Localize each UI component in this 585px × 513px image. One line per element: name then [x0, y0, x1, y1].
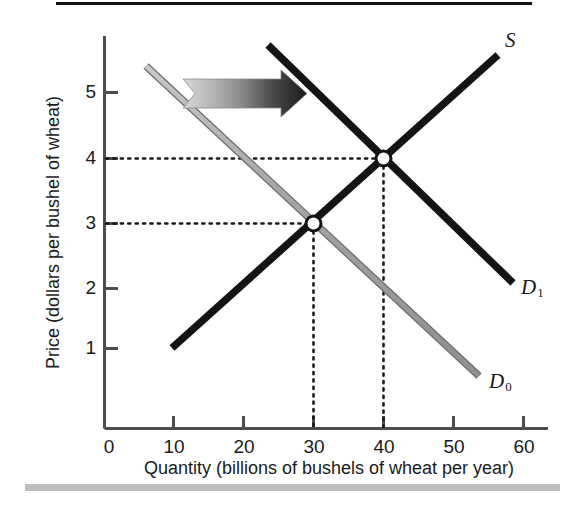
x-tick-label-50: 50: [440, 437, 468, 456]
supply-demand-figure: 5 4 3 2 1 0 10 20 30 40 50 60 Price (dol…: [0, 0, 585, 513]
x-axis-ticks: [174, 416, 524, 429]
y-axis-ticks: [105, 93, 119, 349]
y-tick-label-2: 2: [72, 278, 96, 297]
curve-label-demand-new-subscript: 1: [537, 285, 544, 300]
plot-canvas: [0, 0, 585, 513]
x-axis-title: Quantity (billions of bushels of wheat p…: [104, 458, 554, 479]
x-tick-label-60: 60: [510, 437, 538, 456]
y-tick-label-3: 3: [72, 213, 96, 232]
x-tick-label-10: 10: [160, 437, 188, 456]
demand-shift-arrow-icon: [183, 70, 307, 117]
x-tick-label-20: 20: [230, 437, 258, 456]
x-tick-label-0: 0: [96, 437, 122, 456]
curve-label-demand-old: D0: [489, 371, 511, 392]
curve-label-demand-old-subscript: 0: [505, 379, 512, 394]
y-tick-label-5: 5: [72, 82, 96, 101]
x-tick-label-40: 40: [370, 437, 398, 456]
x-tick-label-30: 30: [300, 437, 328, 456]
curve-label-demand-new: D1: [521, 277, 543, 298]
curve-label-supply-text: S: [505, 28, 516, 52]
equilibrium-marker-initial: [306, 216, 321, 231]
curve-label-demand-old-text: D: [489, 369, 504, 393]
equilibrium-marker-new: [376, 151, 391, 166]
bottom-rule-bar: [25, 484, 560, 491]
y-tick-label-1: 1: [72, 338, 96, 357]
y-axis-title: Price (dollars per bushel of wheat): [43, 68, 64, 398]
y-tick-label-4: 4: [72, 148, 96, 167]
curve-label-demand-new-text: D: [521, 275, 536, 299]
curve-label-supply: S: [505, 30, 516, 51]
